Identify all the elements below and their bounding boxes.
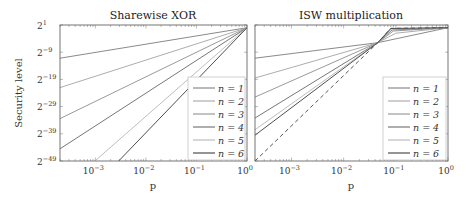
legend-label: n = 5: [413, 135, 439, 146]
figure: Sharewise XOR ISW multiplication Securit…: [0, 0, 468, 202]
legend-label: n = 1: [413, 83, 439, 94]
y-axis-label: Security level: [13, 58, 24, 128]
left-plot-title: Sharewise XOR: [110, 9, 197, 22]
x-tick-label: 10−1: [383, 164, 404, 176]
legend-label: n = 6: [218, 148, 244, 159]
legend-label: n = 3: [218, 109, 244, 120]
y-tick-labels: 212−92−192−292−392−49: [37, 19, 56, 167]
x-tick-label: 10−2: [133, 164, 154, 176]
right-x-tick-labels: 10−310−210−1100: [279, 164, 454, 176]
legend-label: n = 2: [218, 96, 244, 107]
legend-label: n = 3: [413, 109, 439, 120]
x-tick-label: 100: [237, 164, 253, 176]
series-line: [255, 28, 448, 59]
y-tick-label: 2−49: [37, 155, 56, 167]
legend-label: n = 1: [218, 83, 244, 94]
legend-label: n = 4: [413, 122, 439, 133]
right-x-axis-label: p: [348, 180, 354, 191]
left-x-tick-labels: 10−310−210−1100: [83, 164, 253, 176]
legend-label: n = 4: [218, 122, 244, 133]
x-tick-label: 100: [438, 164, 454, 176]
legend-label: n = 2: [413, 96, 439, 107]
legend-label: n = 6: [413, 148, 439, 159]
y-tick-label: 2−29: [37, 100, 56, 112]
series-line: [255, 28, 448, 78]
left-legend: n = 1n = 2n = 3n = 4n = 5n = 6: [188, 77, 245, 160]
right-legend: n = 1n = 2n = 3n = 4n = 5n = 6: [383, 77, 446, 160]
right-plot-title: ISW multiplication: [299, 9, 403, 22]
y-tick-label: 2−19: [37, 73, 56, 85]
x-tick-label: 10−3: [83, 164, 104, 176]
x-tick-label: 10−1: [184, 164, 205, 176]
y-tick-label: 2−9: [37, 46, 52, 58]
x-tick-label: 10−3: [279, 164, 300, 176]
legend-label: n = 5: [218, 135, 244, 146]
series-line: [60, 28, 247, 59]
y-tick-label: 2−39: [37, 127, 56, 139]
left-x-axis-label: p: [150, 180, 156, 191]
x-tick-label: 10−2: [331, 164, 352, 176]
y-tick-label: 21: [37, 19, 47, 31]
